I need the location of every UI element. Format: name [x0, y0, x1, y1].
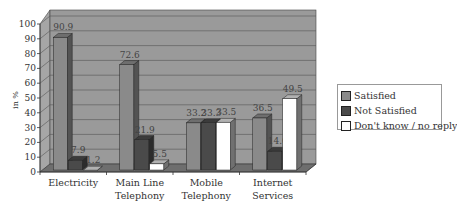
legend-swatch-not-satisfied: [341, 106, 351, 116]
y-tick-label: 100: [19, 19, 36, 29]
data-label: 1.2: [86, 155, 100, 165]
legend-item-not-satisfied: Not Satisfied: [341, 103, 438, 118]
x-category-label: Services: [252, 190, 293, 201]
data-label: 90.9: [53, 22, 73, 32]
y-tick-label: 90: [25, 34, 37, 44]
x-category-label: Electricity: [48, 177, 98, 188]
y-axis-label: in %: [11, 91, 20, 109]
data-label: 21.9: [135, 125, 155, 135]
data-label: 49.5: [283, 84, 303, 94]
data-label: 36.5: [253, 103, 273, 113]
bar: 49.5: [283, 84, 303, 170]
y-axis: 0102030405060708090100: [19, 19, 40, 177]
legend-label: Satisfied: [354, 88, 396, 103]
x-category-label: Telephony: [182, 190, 232, 201]
y-tick-label: 70: [25, 63, 37, 73]
bar: 33.5: [216, 107, 236, 170]
y-tick-label: 20: [25, 137, 37, 147]
legend-item-dont-know: Don't know / no reply: [341, 118, 438, 133]
data-label: 7.9: [71, 145, 86, 155]
legend-item-satisfied: Satisfied: [341, 88, 438, 103]
legend-swatch-dont-know: [341, 121, 351, 131]
y-tick-label: 40: [25, 108, 37, 118]
legend-swatch-satisfied: [341, 91, 351, 101]
data-label: 33.5: [216, 107, 236, 117]
y-tick-label: 80: [25, 49, 37, 59]
bar: 1.2: [83, 155, 102, 170]
x-category-label: Mobile: [190, 177, 224, 188]
data-label: 72.6: [120, 50, 140, 60]
data-label: 5.5: [153, 149, 168, 159]
y-tick-label: 10: [25, 152, 37, 162]
y-tick-label: 60: [25, 78, 37, 88]
legend-label: Not Satisfied: [354, 103, 417, 118]
x-category-label: Main Line: [115, 177, 164, 188]
y-tick-label: 50: [25, 93, 37, 103]
y-tick-label: 30: [25, 123, 37, 133]
legend-label: Don't know / no reply: [354, 118, 457, 133]
x-category-label: Telephony: [115, 190, 165, 201]
legend: Satisfied Not Satisfied Don't know / no …: [337, 84, 442, 130]
y-tick-label: 0: [30, 167, 36, 177]
x-category-label: Internet: [253, 177, 293, 188]
